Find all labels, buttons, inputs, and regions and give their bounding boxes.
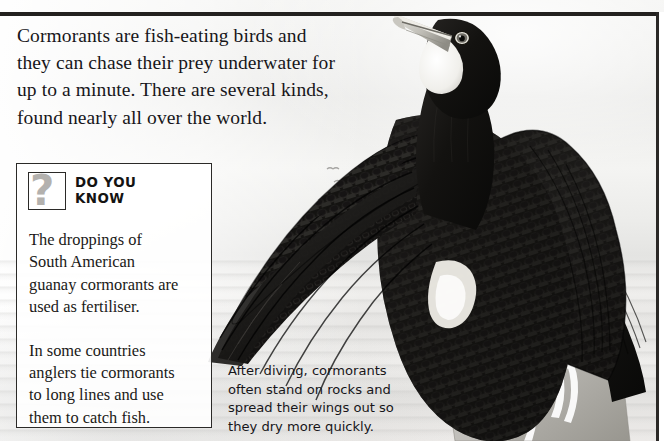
dyk-p2-line-2: anglers tie cormorants (29, 362, 207, 384)
intro-line-3: up to a minute. There are several kinds, (17, 76, 417, 103)
dyk-p2-line-4: them to catch fish. (29, 407, 207, 429)
intro-paragraph: Cormorants are fish-eating birds and the… (17, 22, 417, 131)
do-you-know-title-line-2: KNOW (75, 191, 136, 207)
photo-caption: After diving, cormorants often stand on … (228, 362, 443, 436)
caption-line-3: spread their wings out so (228, 399, 443, 418)
do-you-know-paragraph-1: The droppings of South American guanay c… (29, 229, 207, 319)
do-you-know-title: DO YOU KNOW (75, 175, 136, 207)
do-you-know-paragraph-2: In some countries anglers tie cormorants… (29, 340, 207, 430)
page-root: Cormorants are fish-eating birds and the… (0, 0, 664, 441)
dyk-p1-line-3: guanay cormorants are (29, 274, 207, 296)
caption-line-2: often stand on rocks and (228, 381, 443, 400)
dyk-p2-line-3: to long lines and use (29, 384, 207, 406)
intro-line-4: found nearly all over the world. (17, 104, 417, 131)
do-you-know-box: ? DO YOU KNOW The droppings of South Ame… (16, 163, 212, 428)
question-mark-icon: ? (28, 172, 66, 210)
dyk-p1-line-1: The droppings of (29, 229, 207, 251)
intro-line-2: they can chase their prey underwater for (17, 49, 417, 76)
intro-line-1: Cormorants are fish-eating birds and (17, 22, 417, 49)
do-you-know-header: ? DO YOU KNOW (28, 172, 136, 210)
dyk-p2-line-1: In some countries (29, 340, 207, 362)
svg-text:?: ? (30, 169, 54, 215)
caption-line-1: After diving, cormorants (228, 362, 443, 381)
do-you-know-title-line-1: DO YOU (75, 175, 136, 191)
right-rule (656, 12, 659, 441)
top-rule (0, 12, 664, 16)
bird-eye (454, 31, 469, 44)
do-you-know-body: The droppings of South American guanay c… (29, 229, 207, 429)
dyk-p1-line-2: South American (29, 251, 207, 273)
right-margin (659, 12, 664, 441)
caption-line-4: they dry more quickly. (228, 418, 443, 437)
dyk-p1-line-4: used as fertiliser. (29, 296, 207, 318)
